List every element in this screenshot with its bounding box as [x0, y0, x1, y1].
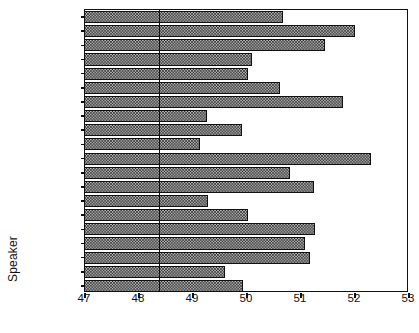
bar-row	[85, 95, 407, 109]
bar-kennedy	[84, 68, 248, 80]
x-tick-label-47: 47	[69, 292, 99, 304]
bar-eisenhower	[84, 39, 325, 51]
x-tick-label-51: 51	[285, 292, 315, 304]
bar-truman	[84, 11, 283, 23]
bar-row	[85, 123, 407, 137]
bar-row	[85, 194, 407, 208]
y-tick-mark	[81, 285, 86, 287]
bar-anderson	[84, 195, 208, 207]
bar-mcgovern	[84, 138, 200, 150]
bar-row	[85, 208, 407, 222]
bar-stevenson	[84, 53, 252, 65]
x-tick-label-53: 53	[393, 292, 419, 304]
y-tick-mark	[81, 229, 86, 231]
plot-area	[84, 9, 408, 292]
y-tick-mark	[81, 73, 86, 75]
y-axis-title: Speaker	[6, 219, 20, 299]
x-tick-label-50: 50	[231, 292, 261, 304]
bar-row	[85, 166, 407, 180]
bar-carter	[84, 167, 290, 179]
bar-row	[85, 279, 407, 293]
bar-series	[85, 10, 407, 291]
bar-johnson	[84, 96, 343, 108]
bar-dewey	[84, 25, 355, 37]
y-tick-mark	[81, 30, 86, 32]
bar-reagan	[84, 181, 314, 193]
y-tick-mark	[81, 16, 86, 18]
x-tick-label-49: 49	[177, 292, 207, 304]
bar-row	[85, 38, 407, 52]
bar-perot	[84, 266, 225, 278]
x-tick-label-52: 52	[339, 292, 369, 304]
y-tick-mark	[81, 172, 86, 174]
bar-dukakis	[84, 237, 305, 249]
y-tick-mark	[81, 243, 86, 245]
y-tick-mark	[81, 200, 86, 202]
bar-row	[85, 137, 407, 151]
bar-humphrey	[84, 124, 242, 136]
bar-ford	[84, 153, 371, 165]
bar-row	[85, 10, 407, 24]
bar-chart: Speaker TrumanDeweyEisenhowerStevensonKe…	[0, 0, 419, 333]
y-tick-mark	[81, 59, 86, 61]
bar-goldwater	[84, 110, 207, 122]
bar-row	[85, 52, 407, 66]
bar-row	[85, 24, 407, 38]
bar-row	[85, 180, 407, 194]
y-tick-mark	[81, 129, 86, 131]
bar-row	[85, 152, 407, 166]
bar-mondale	[84, 209, 248, 221]
y-tick-mark	[81, 115, 86, 117]
y-tick-mark	[81, 271, 86, 273]
reference-line	[159, 10, 160, 291]
y-tick-mark	[81, 45, 86, 47]
y-tick-mark	[81, 144, 86, 146]
y-tick-mark	[81, 158, 86, 160]
y-tick-mark	[81, 186, 86, 188]
x-tick-label-48: 48	[123, 292, 153, 304]
y-tick-mark	[81, 257, 86, 259]
bar-clinton	[84, 252, 310, 264]
bar-bush	[84, 223, 315, 235]
bar-row	[85, 109, 407, 123]
bar-row	[85, 67, 407, 81]
bar-row	[85, 222, 407, 236]
bar-row	[85, 251, 407, 265]
y-tick-mark	[81, 214, 86, 216]
bar-row	[85, 81, 407, 95]
y-tick-mark	[81, 87, 86, 89]
bar-dole	[84, 280, 243, 292]
bar-row	[85, 265, 407, 279]
y-tick-mark	[81, 101, 86, 103]
bar-row	[85, 236, 407, 250]
bar-nixon	[84, 82, 280, 94]
